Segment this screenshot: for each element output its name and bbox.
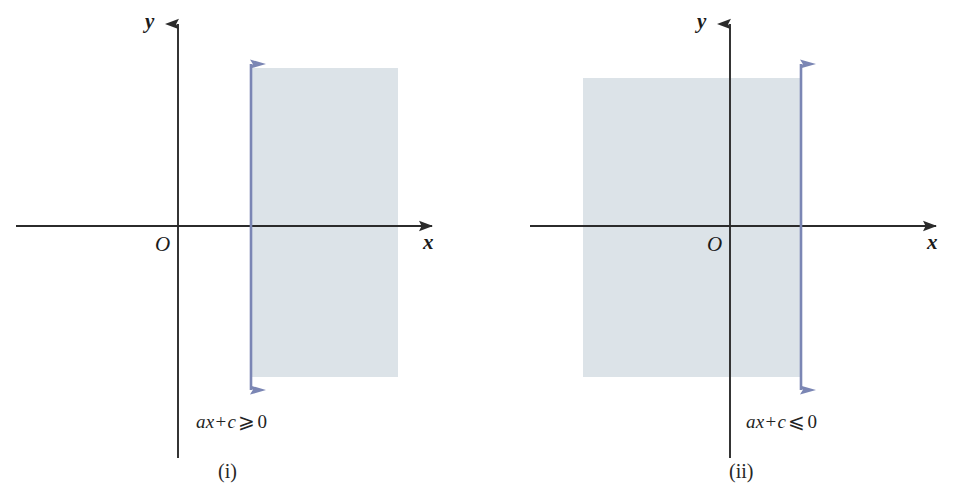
y-axis-label: y (145, 11, 154, 32)
panel-i: y x O ax+c⩾0 (i) (0, 0, 481, 502)
inequality-lhs: ax (746, 411, 765, 432)
inequality-operator: + (215, 411, 228, 432)
panel-i-graphic (0, 0, 481, 470)
figure-canvas: y x O ax+c⩾0 (i) (0, 0, 962, 502)
shaded-region (583, 78, 801, 377)
inequality-operator: + (765, 411, 778, 432)
shaded-region (251, 68, 398, 377)
inequality-rhs: 0 (258, 411, 268, 432)
inequality-label: ax+c⩾0 (196, 411, 267, 431)
inequality-lhs: ax (196, 411, 215, 432)
inequality-rhs: 0 (808, 411, 818, 432)
x-axis-label: x (423, 232, 434, 253)
inequality-label: ax+c⩽0 (746, 411, 817, 431)
inequality-constant: c (778, 411, 787, 432)
panel-ii: y x O ax+c⩽0 (ii) (481, 0, 962, 502)
origin-label: O (155, 234, 170, 255)
panel-caption: (i) (218, 461, 237, 481)
panel-caption: (ii) (729, 461, 753, 481)
inequality-constant: c (228, 411, 237, 432)
inequality-relation: ⩾ (236, 410, 257, 432)
y-axis-label: y (697, 11, 706, 32)
x-axis-label: x (927, 232, 938, 253)
inequality-relation: ⩽ (786, 410, 807, 432)
origin-label: O (707, 234, 722, 255)
